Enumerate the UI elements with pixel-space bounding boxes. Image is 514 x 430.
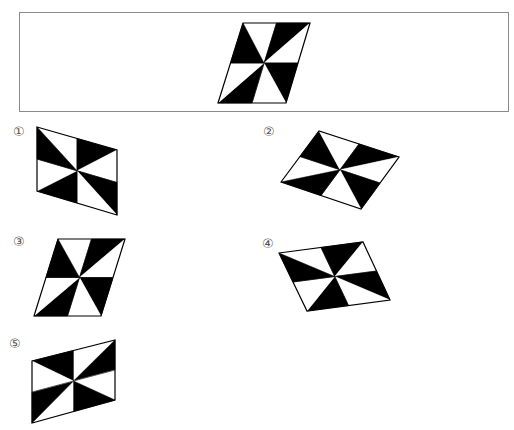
option-5-figure[interactable] bbox=[32, 340, 115, 423]
option-4-label[interactable]: ④ bbox=[262, 237, 274, 250]
option-4-figure[interactable] bbox=[279, 242, 390, 311]
option-3-label[interactable]: ③ bbox=[13, 235, 25, 248]
option-2-figure[interactable] bbox=[281, 131, 399, 209]
reference-figure bbox=[218, 23, 310, 103]
option-1-label[interactable]: ① bbox=[13, 125, 25, 138]
option-2-label[interactable]: ② bbox=[263, 125, 275, 138]
option-3-figure[interactable] bbox=[34, 239, 125, 316]
figure-canvas bbox=[0, 0, 514, 430]
option-5-label[interactable]: ⑤ bbox=[9, 337, 21, 350]
option-1-figure[interactable] bbox=[37, 127, 117, 215]
